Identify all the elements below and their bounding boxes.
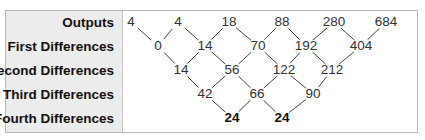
difference-value: 280 — [323, 14, 346, 30]
difference-value: 122 — [273, 62, 296, 78]
difference-value: 70 — [250, 38, 265, 54]
connector-lines — [0, 0, 425, 140]
difference-value: 14 — [173, 62, 188, 78]
difference-value: 4 — [127, 14, 135, 30]
difference-value: 66 — [249, 86, 264, 102]
difference-value: 684 — [375, 14, 398, 30]
difference-value: 192 — [295, 38, 318, 54]
difference-value: 56 — [224, 62, 239, 78]
difference-value: 4 — [174, 14, 182, 30]
difference-value: 404 — [350, 38, 373, 54]
difference-value: 14 — [197, 38, 212, 54]
difference-value: 88 — [274, 14, 289, 30]
difference-value: 18 — [221, 14, 236, 30]
difference-value: 24 — [274, 110, 289, 126]
difference-value: 0 — [154, 38, 162, 54]
difference-value: 42 — [197, 86, 212, 102]
difference-value: 90 — [305, 86, 320, 102]
difference-value: 24 — [224, 110, 239, 126]
difference-value: 212 — [321, 62, 344, 78]
